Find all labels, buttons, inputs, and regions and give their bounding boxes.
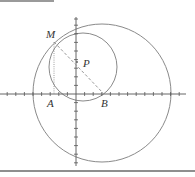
geometry-figure xyxy=(0,0,195,177)
label-m: M xyxy=(46,29,55,40)
label-a: A xyxy=(47,98,54,109)
point-p-marker xyxy=(76,61,78,63)
label-b: B xyxy=(101,98,108,109)
bottom-border xyxy=(0,170,195,172)
label-p: P xyxy=(83,58,90,69)
diagram-canvas: M P A B xyxy=(0,0,195,177)
segment-mb-dashed xyxy=(54,42,104,94)
x-axis-ticks xyxy=(7,92,179,96)
